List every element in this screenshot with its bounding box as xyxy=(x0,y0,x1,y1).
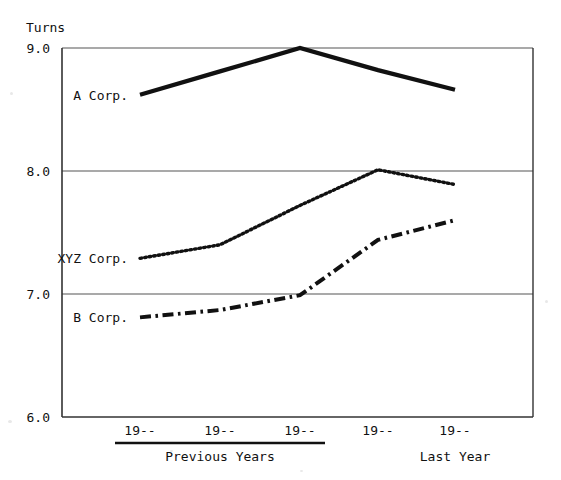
scan-artifact xyxy=(170,450,173,452)
y-axis-tick-label: 8.0 xyxy=(27,164,50,179)
scan-artifact xyxy=(10,92,13,95)
series-line-1 xyxy=(140,170,455,259)
scan-artifact xyxy=(300,470,303,472)
x-axis-tick-label: 19-- xyxy=(362,423,393,438)
y-axis-title: Turns xyxy=(26,20,65,35)
y-axis-tick-label: 7.0 xyxy=(27,287,50,302)
x-axis-tick-label: 19-- xyxy=(439,423,470,438)
series-label-0: A Corp. xyxy=(73,88,128,103)
line-chart-canvas: 6.07.08.09.0TurnsA Corp.XYZ Corp.B Corp.… xyxy=(0,0,561,480)
scan-artifact xyxy=(545,300,548,303)
series-line-2 xyxy=(140,220,455,317)
x-axis-tick-label: 19-- xyxy=(124,423,155,438)
series-label-2: B Corp. xyxy=(73,310,128,325)
y-axis-tick-label: 9.0 xyxy=(27,41,50,56)
chart-figure: 6.07.08.09.0TurnsA Corp.XYZ Corp.B Corp.… xyxy=(0,0,561,480)
y-axis-tick-label: 6.0 xyxy=(27,410,50,425)
scan-artifact xyxy=(8,420,12,423)
x-group-label-1: Last Year xyxy=(420,449,491,464)
series-line-0 xyxy=(140,48,455,95)
x-axis-tick-label: 19-- xyxy=(284,423,315,438)
x-axis-tick-label: 19-- xyxy=(204,423,235,438)
series-label-1: XYZ Corp. xyxy=(58,251,128,266)
x-group-label-0: Previous Years xyxy=(165,449,275,464)
